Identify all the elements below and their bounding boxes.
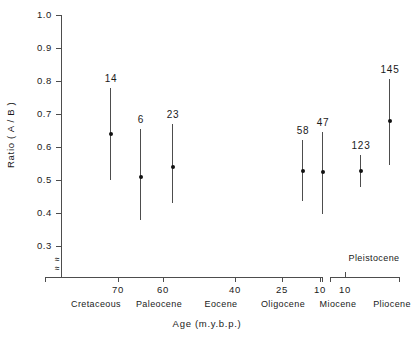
y-tick-label: 0.7 — [24, 109, 52, 119]
data-point-label: 14 — [105, 74, 118, 84]
y-tick-label: 0.5 — [24, 175, 52, 185]
y-tick-label-wrap: 0.8 — [0, 76, 52, 86]
x-tick-label: 60 — [157, 285, 169, 295]
x-axis-end-cap — [322, 277, 323, 282]
era-label: Paleocene — [136, 300, 182, 309]
x-tick-mark — [345, 272, 346, 277]
data-point-label: 47 — [317, 118, 330, 128]
y-tick-mark — [56, 114, 61, 115]
error-bar — [172, 124, 173, 203]
y-tick-label: 0.6 — [24, 142, 52, 152]
y-tick-label-wrap: 0.9 — [0, 43, 52, 53]
data-point-marker — [171, 165, 175, 169]
data-point-marker — [301, 169, 305, 173]
y-tick-mark — [56, 213, 61, 214]
x-tick-mark — [282, 277, 283, 282]
era-label: Eocene — [205, 300, 238, 309]
y-tick-mark — [56, 81, 61, 82]
y-tick-mark — [56, 180, 61, 181]
x-tick-mark — [235, 277, 236, 282]
data-point-label: 145 — [380, 65, 399, 75]
era-label: Pliocene — [373, 300, 411, 309]
y-axis-break-lower-icon: ≈ — [55, 265, 59, 273]
x-axis-title: Age (m.y.b.p.) — [0, 319, 414, 329]
y-axis-break-upper-icon: ≈ — [55, 256, 59, 264]
data-point-label: 58 — [297, 126, 310, 136]
data-point-marker — [109, 132, 113, 136]
data-point-marker — [321, 170, 325, 174]
x-axis-end-cap — [399, 277, 400, 282]
y-tick-label: 1.0 — [24, 10, 52, 20]
data-point-marker — [139, 175, 143, 179]
x-tick-mark — [320, 277, 321, 282]
y-tick-mark — [56, 246, 61, 247]
data-point-label: 23 — [167, 110, 180, 120]
y-axis-line — [61, 15, 62, 278]
era-label: Miocene — [320, 300, 357, 309]
x-tick-mark — [118, 277, 119, 282]
x-axis-pleistocene-segment — [330, 277, 399, 278]
x-tick-label: 25 — [276, 285, 288, 295]
x-tick-label: 10 — [339, 285, 351, 295]
x-tick-mark — [163, 277, 164, 282]
era-label: Cretaceous — [71, 300, 121, 309]
data-point-marker — [359, 169, 363, 173]
y-axis-title: Ratio ( A / B ) — [6, 90, 16, 180]
x-tick-label: 40 — [229, 285, 241, 295]
x-axis-line — [45, 277, 322, 278]
data-point-label: 123 — [351, 141, 370, 151]
y-tick-label: 0.9 — [24, 43, 52, 53]
y-tick-label: 0.4 — [24, 208, 52, 218]
y-tick-mark — [56, 48, 61, 49]
y-tick-label-wrap: 1.0 — [0, 10, 52, 20]
ratio-vs-age-chart: 1.00.90.80.70.60.50.40.3 ≈ ≈ Ratio ( A /… — [0, 0, 414, 339]
y-tick-label-wrap: 0.4 — [0, 208, 52, 218]
y-tick-label: 0.8 — [24, 76, 52, 86]
y-tick-label: 0.3 — [24, 241, 52, 251]
y-tick-mark — [56, 147, 61, 148]
x-axis-end-cap — [45, 277, 46, 282]
pleistocene-bracket-label: Pleistocene — [349, 254, 400, 263]
x-tick-label: 10 — [314, 285, 326, 295]
data-point-marker — [388, 119, 392, 123]
x-axis-end-cap — [330, 277, 331, 282]
data-point-label: 6 — [138, 115, 144, 125]
era-label: Oligocene — [261, 300, 305, 309]
y-tick-mark — [56, 15, 61, 16]
x-tick-label: 70 — [112, 285, 124, 295]
y-tick-label-wrap: 0.3 — [0, 241, 52, 251]
